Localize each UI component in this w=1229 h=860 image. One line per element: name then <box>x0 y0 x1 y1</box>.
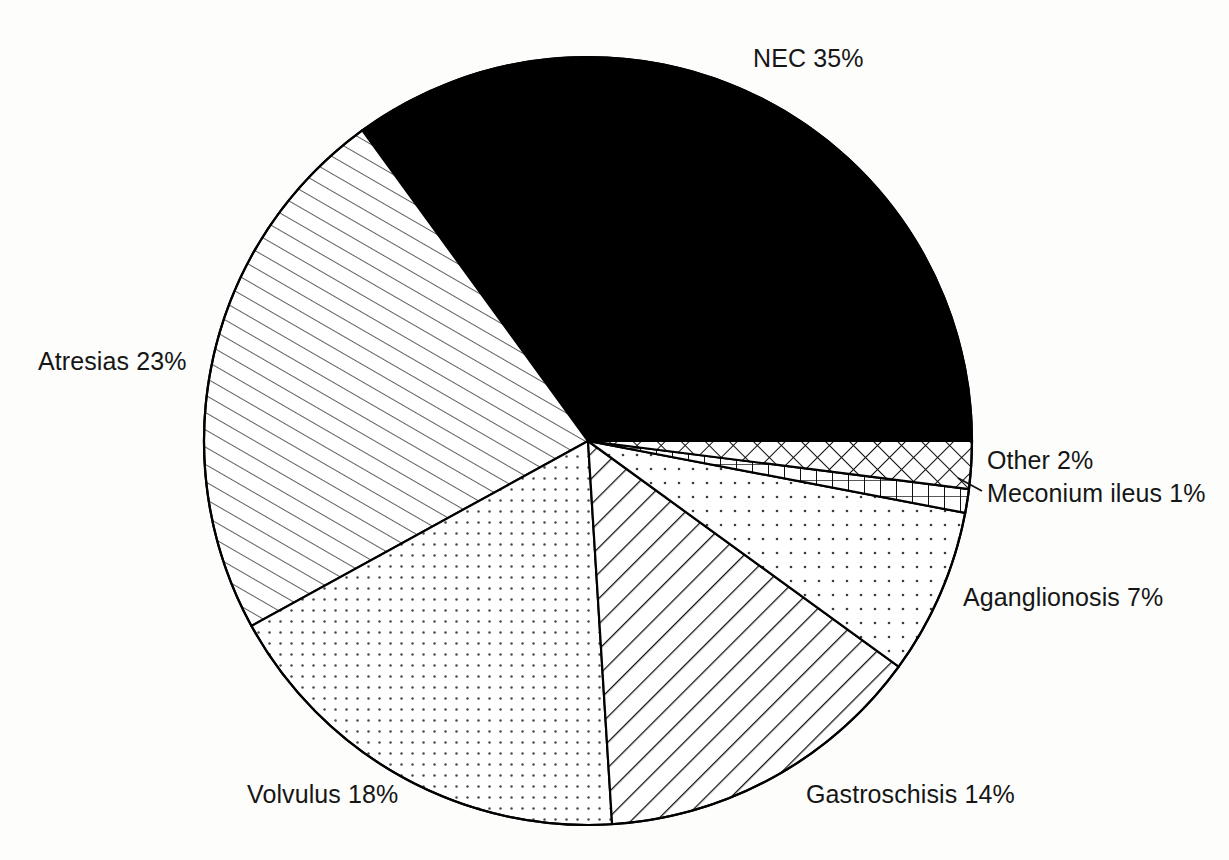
slice-label-meconium-ileus: Meconium ileus 1% <box>987 479 1205 509</box>
pie-chart-figure: NEC 35% Atresias 23% Volvulus 18% Gastro… <box>0 0 1229 860</box>
slice-label-nec: NEC 35% <box>753 44 863 74</box>
pie-slices-group <box>204 57 972 825</box>
slice-label-gastroschisis: Gastroschisis 14% <box>806 780 1015 810</box>
pie-chart-svg <box>0 0 1229 860</box>
slice-label-volvulus: Volvulus 18% <box>247 780 398 810</box>
slice-label-other: Other 2% <box>987 446 1093 476</box>
slice-label-aganglionosis: Aganglionosis 7% <box>963 583 1163 613</box>
slice-label-atresias: Atresias 23% <box>38 347 187 377</box>
